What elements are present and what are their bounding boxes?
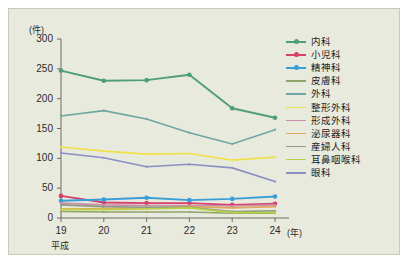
legend-item-4[interactable]: 外科 xyxy=(285,87,395,100)
x-axis-unit: (年) xyxy=(287,226,302,239)
legend-item-6[interactable]: 形成外科 xyxy=(285,114,395,127)
legend-item-label: 外科 xyxy=(311,88,331,99)
legend-swatch-icon xyxy=(285,128,307,139)
y-tick-label: 200 xyxy=(25,93,53,104)
legend-item-0[interactable]: 内科 xyxy=(285,35,395,48)
y-tick-label: 50 xyxy=(25,182,53,193)
legend-swatch-icon xyxy=(285,75,307,86)
y-tick-label: 0 xyxy=(25,212,53,223)
series-10 xyxy=(60,152,276,183)
y-tick-label: 300 xyxy=(25,33,53,44)
legend-item-9[interactable]: 耳鼻咽喉科 xyxy=(285,153,395,166)
x-tick-label: 20 xyxy=(89,225,119,236)
legend-swatch-icon xyxy=(285,167,307,178)
legend-item-5[interactable]: 整形外科 xyxy=(285,100,395,113)
legend-item-7[interactable]: 泌尿器科 xyxy=(285,127,395,140)
legend-swatch-icon xyxy=(285,102,307,113)
series-5 xyxy=(60,146,276,161)
legend-swatch-icon xyxy=(285,115,307,126)
legend-item-label: 小児科 xyxy=(311,49,341,60)
legend-item-label: 精神科 xyxy=(311,62,341,73)
y-tick-label: 100 xyxy=(25,152,53,163)
legend-swatch-icon xyxy=(285,36,307,47)
legend-item-3[interactable]: 皮膚科 xyxy=(285,74,395,87)
axis-ticks xyxy=(57,39,275,222)
y-tick-label: 150 xyxy=(25,123,53,134)
chart-figure: (件) 300250200150100500 192021222324 (年) … xyxy=(8,8,400,255)
y-tick-label: 250 xyxy=(25,63,53,74)
x-tick-label: 19 xyxy=(46,225,76,236)
x-tick-label: 22 xyxy=(174,225,204,236)
x-tick-label: 21 xyxy=(132,225,162,236)
legend-item-1[interactable]: 小児科 xyxy=(285,48,395,61)
x-tick-label: 23 xyxy=(217,225,247,236)
chart-legend: 内科小児科精神科皮膚科外科整形外科形成外科泌尿器科産婦人科耳鼻咽喉科眼科 xyxy=(285,35,395,179)
legend-swatch-icon xyxy=(285,62,307,73)
legend-item-label: 耳鼻咽喉科 xyxy=(311,154,361,165)
series-2 xyxy=(59,194,278,203)
legend-swatch-icon xyxy=(285,88,307,99)
legend-item-label: 整形外科 xyxy=(311,102,351,113)
legend-swatch-icon xyxy=(285,154,307,165)
legend-item-label: 内科 xyxy=(311,36,331,47)
legend-item-2[interactable]: 精神科 xyxy=(285,61,395,74)
x-tick-label: 24 xyxy=(260,225,290,236)
series-4 xyxy=(60,110,276,146)
legend-item-label: 泌尿器科 xyxy=(311,128,351,139)
legend-swatch-icon xyxy=(285,141,307,152)
legend-item-8[interactable]: 産婦人科 xyxy=(285,140,395,153)
legend-item-label: 産婦人科 xyxy=(311,141,351,152)
legend-item-label: 形成外科 xyxy=(311,115,351,126)
legend-swatch-icon xyxy=(285,49,307,60)
legend-item-10[interactable]: 眼科 xyxy=(285,166,395,179)
legend-item-label: 眼科 xyxy=(311,167,331,178)
era-label: 平成 xyxy=(51,239,69,252)
legend-item-label: 皮膚科 xyxy=(311,75,341,86)
